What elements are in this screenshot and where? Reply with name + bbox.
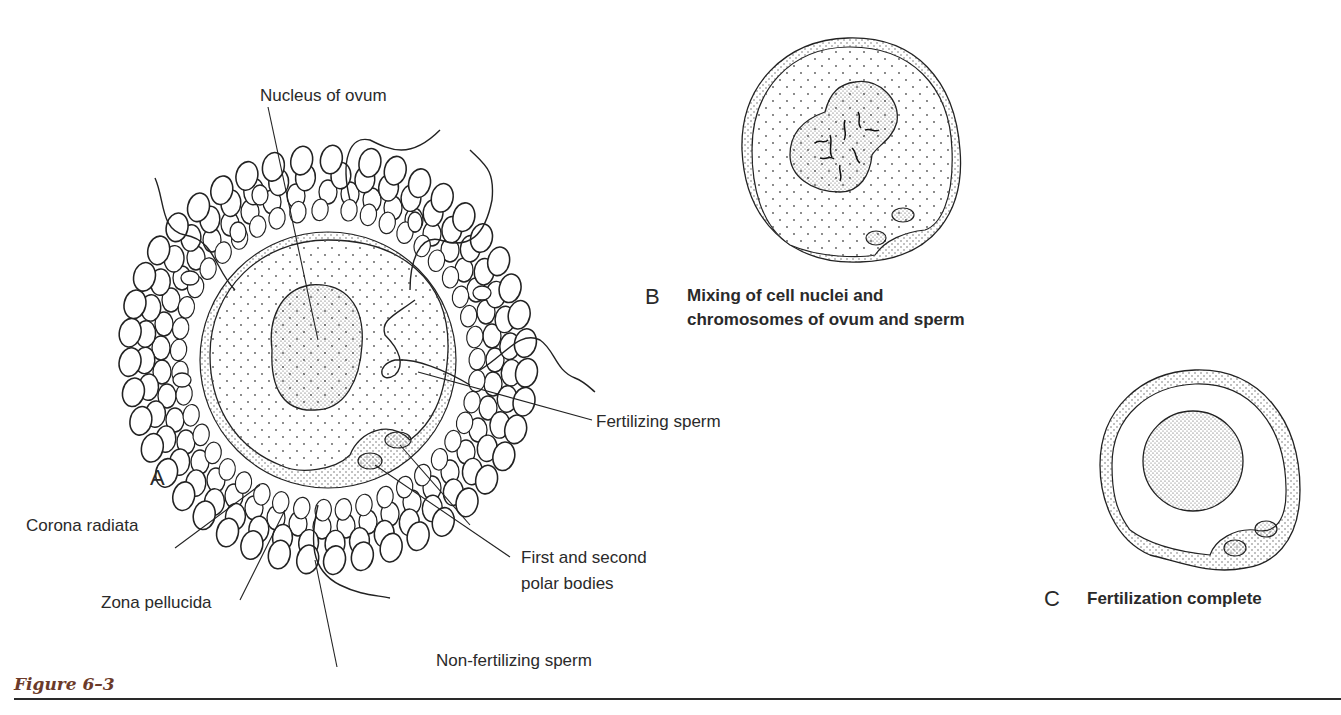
polar-body-b1 (892, 208, 914, 222)
panel-letter-a: A (150, 465, 165, 491)
polar-body-2 (358, 453, 382, 469)
label-fertilizing-sperm: Fertilizing sperm (596, 412, 721, 432)
zygote-nucleus (1143, 411, 1243, 511)
ovum-nucleus (271, 285, 362, 410)
label-polar-bodies-line1: First and second (521, 548, 647, 568)
panel-letter-b: B (645, 284, 660, 310)
figure-caption: Figure 6–3 (14, 674, 115, 694)
polar-body-b2 (866, 231, 886, 245)
panel-b-mixing (742, 38, 961, 262)
caption-rule (14, 698, 1341, 700)
caption-c: Fertilization complete (1087, 588, 1262, 610)
label-zona-pellucida: Zona pellucida (101, 593, 212, 613)
label-corona-radiata: Corona radiata (26, 516, 138, 536)
panel-a-ovum (77, 105, 595, 667)
label-non-fertilizing-sperm: Non-fertilizing sperm (436, 651, 592, 671)
caption-b-line1: Mixing of cell nuclei and (687, 285, 883, 307)
panel-c-complete (1100, 370, 1300, 570)
label-polar-bodies-line2: polar bodies (521, 574, 614, 594)
label-nucleus-of-ovum: Nucleus of ovum (260, 86, 387, 106)
polar-body-1 (385, 432, 411, 448)
polar-body-c2 (1224, 540, 1246, 556)
caption-b-line2: chromosomes of ovum and sperm (687, 309, 965, 331)
polar-body-c1 (1255, 521, 1277, 537)
panel-letter-c: C (1044, 586, 1060, 612)
